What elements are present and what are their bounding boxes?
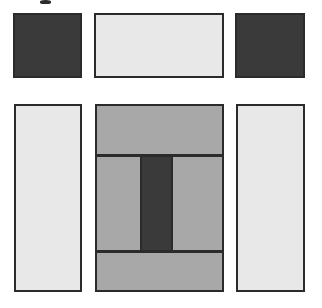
bottom-left-light-rect	[14, 104, 82, 292]
top-right-dark-square	[235, 13, 305, 78]
bottom-right-light-rect	[236, 104, 305, 292]
composite-lower-band	[97, 253, 222, 292]
cropped-glyph-remnant-icon	[40, 0, 51, 4]
composite-upper-band	[97, 106, 222, 154]
composite-center-dark-bar	[140, 157, 173, 250]
top-center-light-rect	[94, 13, 224, 78]
figure-canvas	[0, 0, 322, 308]
top-left-dark-square	[13, 13, 82, 78]
bottom-center-composite	[95, 104, 224, 292]
